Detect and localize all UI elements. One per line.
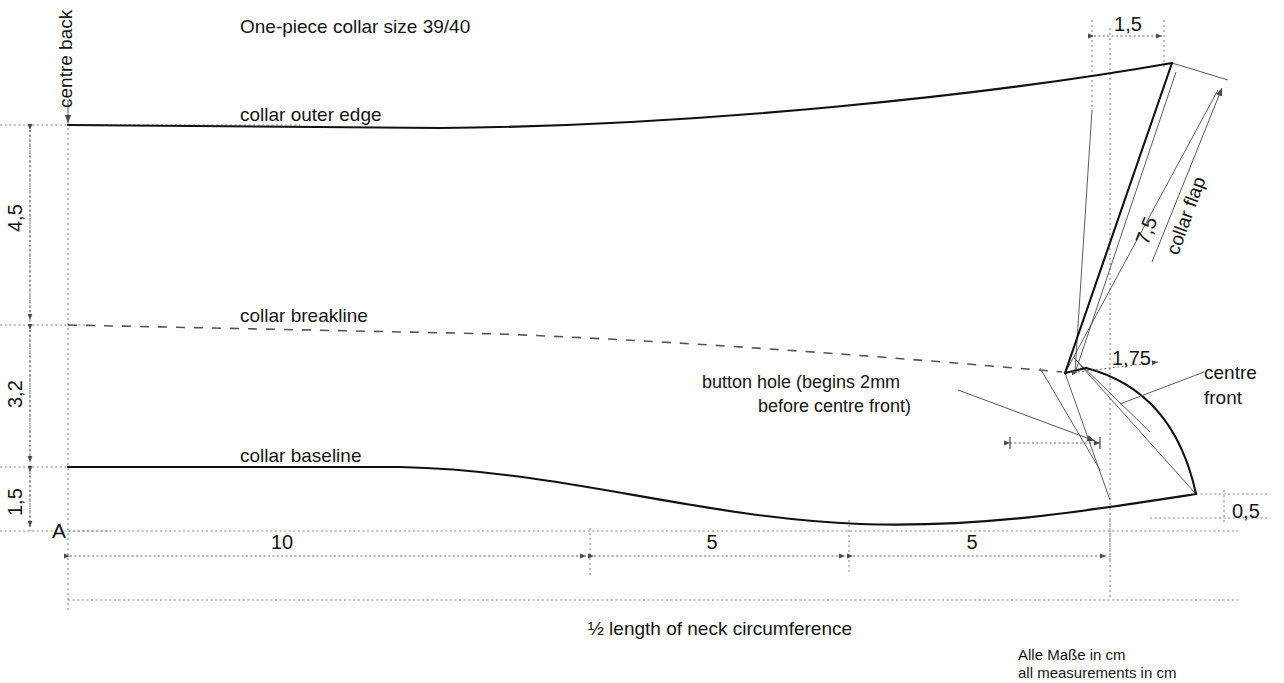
collar-baseline-label: collar baseline [240,445,361,466]
pattern-svg: One-piece collar size 39/40 centre back … [0,0,1284,683]
dimension-1-5-top: 1,5 [1114,13,1142,35]
collar-flap-edge [1065,63,1172,373]
collar-flap-label: collar flap [1162,174,1210,258]
footer-english: all measurements in cm [1018,664,1176,681]
button-hole-note-line1: button hole (begins 2mm [702,372,900,392]
dimension-4-5: 4,5 [4,204,26,232]
dimension-0-5: 0,5 [1232,500,1260,522]
construction-lines [0,20,1270,612]
collar-breakline-curve [68,325,1062,372]
dimension-5-first: 5 [706,531,717,553]
pattern-outline [68,63,1196,525]
point-a-label: A [52,519,66,542]
dimension-1-5-left: 1,5 [4,488,26,516]
footer-german: Alle Maße in cm [1018,646,1126,663]
page-title: One-piece collar size 39/40 [240,16,470,37]
centre-back-label: centre back [55,9,76,108]
button-hole-dimension [958,390,1100,449]
flap-length-dimension [1076,72,1176,370]
collar-breakline-label: collar breakline [240,305,368,326]
button-hole-note-line2: before centre front) [758,396,911,416]
dimension-3-2: 3,2 [4,380,26,408]
collar-baseline-curve [68,467,1196,525]
collar-outer-edge-label: collar outer edge [240,104,382,125]
centre-front-label-line2: front [1204,387,1243,408]
dimension-1-75: 1,75 [1112,347,1151,369]
neck-circumference-caption: ½ length of neck circumference [588,618,852,639]
dimension-7-5: 7,5 [1131,214,1161,248]
centre-front-label-line1: centre [1204,362,1257,383]
collar-outer-edge-curve [68,63,1172,128]
dimension-5-second: 5 [966,531,977,553]
collar-pattern-drawing: One-piece collar size 39/40 centre back … [0,0,1284,683]
dimension-10: 10 [271,531,293,553]
